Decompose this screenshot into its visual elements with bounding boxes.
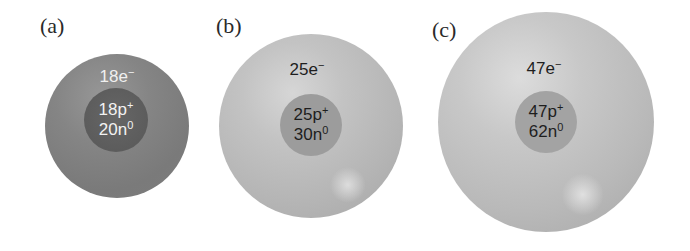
atom-c-nucleus: 47p+ 62n0 — [515, 91, 577, 153]
atom-b-electron-count: 25e− — [290, 61, 325, 78]
atom-b-nucleus: 25p+ 30n0 — [280, 94, 342, 156]
atom-a-neutron-count: 20n0 — [99, 120, 134, 140]
atom-a-nucleus: 18p+ 20n0 — [84, 88, 148, 152]
atom-b-proton-count: 25p+ — [294, 105, 329, 125]
atom-a-proton-count: 18p+ — [99, 100, 134, 120]
atom-c-electron-count: 47e− — [527, 60, 562, 77]
atom-c-proton-count: 47p+ — [529, 102, 564, 122]
atom-c-neutron-count: 62n0 — [529, 122, 564, 142]
panel-label-a: (a) — [40, 15, 64, 37]
atom-b-neutron-count: 30n0 — [294, 125, 329, 145]
atom-a-electron-count: 18e− — [100, 68, 135, 85]
panel-label-c: (c) — [432, 19, 456, 41]
panel-label-b: (b) — [216, 15, 242, 37]
